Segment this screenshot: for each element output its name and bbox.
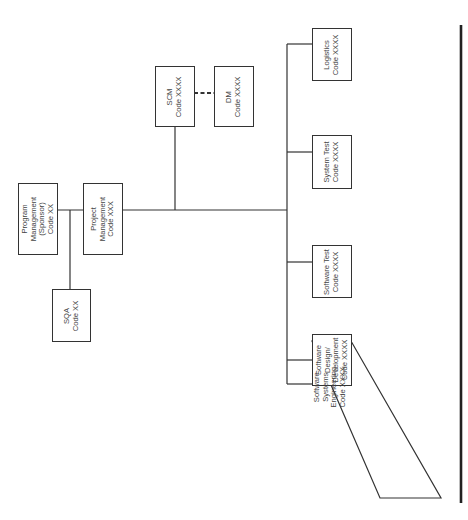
node-label: Code XXXX <box>339 357 348 417</box>
node-project-management: Project Management Code XXX <box>83 183 123 255</box>
node-label: Code XXXX <box>332 34 341 75</box>
node-label: Code XX <box>47 197 56 241</box>
node-label: SQA <box>63 300 72 330</box>
node-label: Code XXXX <box>332 141 341 182</box>
node-software-test: Software Test Code XXXX <box>312 245 352 298</box>
node-program-management: Program Management (Sponsor) Code XX <box>18 183 58 255</box>
node-logistics: Logistics Code XXXX <box>312 28 352 81</box>
node-sqa: SQA Code XX <box>52 289 91 342</box>
node-label: Code XXXX <box>175 76 184 117</box>
node-label: Code XX <box>72 300 81 330</box>
node-label: Code XXXX <box>234 76 243 117</box>
node-software-systems-engineering: Software Systems Engineering Code XXXX <box>313 357 347 417</box>
node-label: Code XXX <box>107 197 116 241</box>
node-dm: DM Code XXXX <box>214 66 254 127</box>
node-scm: SCM Code XXXX <box>155 66 195 127</box>
node-system-test: System Test Code XXXX <box>312 135 352 189</box>
node-label: Code XXXX <box>332 249 341 295</box>
